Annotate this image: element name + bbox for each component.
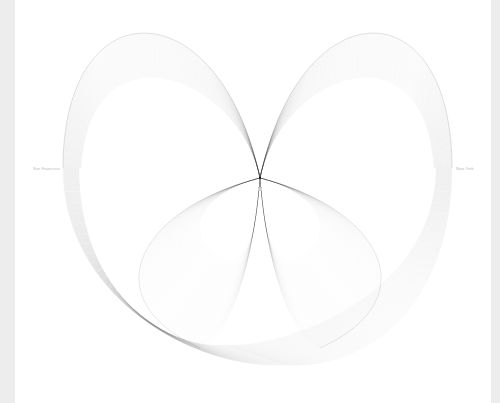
radial-arc-plot bbox=[0, 0, 500, 403]
label-bottom bbox=[256, 376, 262, 390]
label-san-francisco: San Francisco bbox=[33, 166, 60, 171]
label-new-york: New York bbox=[456, 166, 474, 171]
arc-curves bbox=[63, 33, 452, 365]
